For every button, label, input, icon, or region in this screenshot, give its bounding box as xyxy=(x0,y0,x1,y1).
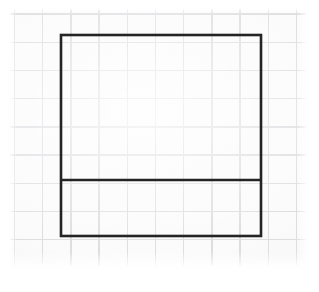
graph-paper-sheet xyxy=(10,9,306,266)
paper-shading xyxy=(10,9,306,266)
image-canvas xyxy=(0,0,319,292)
grid-ruling xyxy=(10,9,306,266)
paper-edge-fade xyxy=(8,7,308,268)
